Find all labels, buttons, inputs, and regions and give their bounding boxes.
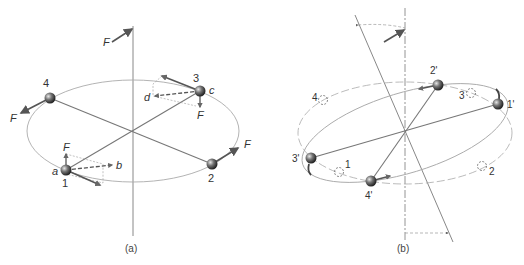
- mass-1-force-label: F: [63, 141, 71, 153]
- panel-a-caption: (a): [125, 243, 137, 254]
- mass-2: [207, 159, 218, 170]
- panel-b: 4 3 1 2 2' 1' 3' 4' (b): [291, 8, 519, 254]
- rod-3p-1p: [311, 104, 498, 158]
- mass-4p: [366, 176, 377, 187]
- mass-4p-label: 4': [365, 190, 373, 201]
- mass-4-force-label: F: [10, 112, 18, 124]
- mass-3p-motion-arrow: [308, 164, 311, 175]
- old-position-3-label: 3: [459, 90, 465, 101]
- torque-arrow: [384, 30, 404, 42]
- old-position-1-label: 1: [345, 159, 351, 170]
- mass-4: [45, 93, 56, 104]
- mass-3-force-label: F: [197, 109, 205, 121]
- panel-a: F F b a 1 d F c 3 F: [10, 26, 252, 254]
- top-tilt-arc: [358, 24, 405, 28]
- mass-3-label: 3: [193, 72, 199, 84]
- mass-3: [195, 86, 206, 97]
- mass-2p-label: 2': [430, 65, 438, 76]
- vector-b-label: b: [116, 159, 122, 171]
- mass-2-force-label: F: [244, 138, 252, 150]
- vector-d-label: d: [144, 91, 151, 103]
- rod-4-2: [50, 98, 212, 164]
- top-force-arrow: [112, 29, 132, 42]
- mass-1: [61, 165, 72, 176]
- mass-3p-label: 3': [292, 153, 300, 164]
- rod-4p-2p: [371, 85, 438, 181]
- top-force-label: F: [103, 36, 111, 48]
- old-position-2: [478, 162, 487, 171]
- old-position-3: [467, 89, 476, 98]
- point-c-label: c: [209, 84, 215, 96]
- mass-3p: [306, 153, 317, 164]
- mass-4-label: 4: [43, 77, 49, 89]
- mass-1p-motion-arrow: [496, 89, 499, 99]
- old-position-4-label: 4: [312, 92, 318, 103]
- mass-1-label: 1: [62, 177, 68, 189]
- old-position-2-label: 2: [489, 166, 495, 177]
- mass-2p: [433, 80, 444, 91]
- mass-2-label: 2: [208, 172, 214, 184]
- point-a-label: a: [52, 165, 58, 177]
- mass-1p: [493, 99, 504, 110]
- tilted-axis: [355, 15, 453, 242]
- figure: F F b a 1 d F c 3 F: [0, 0, 524, 265]
- panel-b-caption: (b): [397, 243, 409, 254]
- mass-1p-label: 1': [507, 99, 515, 110]
